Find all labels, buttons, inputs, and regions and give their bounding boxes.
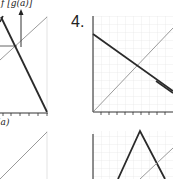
- problem-number: 4.: [71, 13, 84, 31]
- left-bottom-identity-diagonal: [0, 132, 47, 179]
- figure-canvas: [0, 0, 173, 179]
- composite-function-label: f [g(a)]: [1, 0, 32, 8]
- up-arrow-icon: [19, 9, 24, 15]
- x-axis-label: (a): [0, 117, 9, 127]
- left-dark-line: [1, 17, 47, 112]
- left-identity-diagonal: [0, 17, 47, 60]
- top-right-grid: [93, 16, 173, 112]
